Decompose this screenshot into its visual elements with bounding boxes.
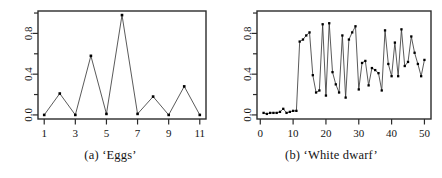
data-point-marker: [351, 31, 353, 33]
x-axis-tick-label: 3: [73, 127, 79, 139]
data-point-marker: [282, 108, 284, 110]
x-axis-tick-label: 7: [135, 127, 141, 139]
data-point-marker: [410, 35, 412, 37]
data-point-marker: [305, 34, 307, 36]
data-point-marker: [285, 112, 287, 114]
data-point-marker: [394, 41, 396, 43]
data-point-marker: [136, 113, 139, 116]
data-point-marker: [390, 75, 392, 77]
data-point-marker: [371, 67, 373, 69]
data-point-marker: [361, 62, 363, 64]
x-axis-tick-label: 50: [419, 127, 431, 139]
x-axis-tick-label: 20: [320, 127, 332, 139]
data-point-marker: [279, 111, 281, 113]
panel-eggs: 0.00.40.81357911 (a) ‘Eggs’: [0, 0, 221, 178]
data-point-marker: [325, 94, 327, 96]
data-point-marker: [167, 114, 170, 117]
data-point-marker: [152, 95, 155, 98]
data-point-marker: [344, 96, 346, 98]
data-point-marker: [397, 75, 399, 77]
y-axis-tick-label: 0.4: [241, 67, 253, 81]
caption-panel-a: (a) ‘Eggs’: [0, 148, 221, 163]
data-series-line: [264, 23, 425, 114]
data-point-marker: [312, 74, 314, 76]
x-axis-tick-label: 5: [104, 127, 110, 139]
data-point-marker: [341, 34, 343, 36]
data-series-line: [44, 15, 200, 115]
x-axis-tick-label: 10: [288, 127, 300, 139]
figure-container: 0.00.40.81357911 (a) ‘Eggs’ 0.00.40.8010…: [0, 0, 442, 178]
data-point-marker: [338, 91, 340, 93]
data-point-marker: [308, 31, 310, 33]
data-point-marker: [423, 59, 425, 61]
y-axis-tick-label: 0.4: [22, 67, 34, 81]
data-point-marker: [105, 113, 108, 116]
data-point-marker: [272, 112, 274, 114]
data-point-marker: [43, 114, 46, 117]
data-point-marker: [121, 14, 124, 17]
data-point-marker: [400, 28, 402, 30]
panel-white-dwarf: 0.00.40.801020304050 (b) ‘White dwarf’: [221, 0, 442, 178]
data-point-marker: [420, 75, 422, 77]
data-point-marker: [407, 61, 409, 63]
x-axis-tick-label: 9: [166, 127, 172, 139]
data-point-marker: [404, 65, 406, 67]
data-point-marker: [335, 83, 337, 85]
data-point-marker: [384, 29, 386, 31]
plot-frame: [38, 11, 206, 119]
data-point-marker: [58, 92, 61, 95]
x-axis-tick-label: 1: [41, 127, 47, 139]
data-point-marker: [374, 69, 376, 71]
y-axis-tick-label: 0.0: [241, 108, 253, 122]
x-axis-tick-label: 11: [194, 127, 205, 139]
data-point-marker: [198, 114, 201, 117]
data-point-marker: [413, 52, 415, 54]
data-point-marker: [74, 114, 77, 117]
data-point-marker: [299, 40, 301, 42]
data-point-marker: [331, 71, 333, 73]
x-axis-tick-label: 30: [353, 127, 365, 139]
data-point-marker: [295, 110, 297, 112]
data-point-marker: [318, 89, 320, 91]
data-point-marker: [266, 113, 268, 115]
caption-panel-b: (b) ‘White dwarf’: [221, 148, 442, 163]
data-point-marker: [315, 91, 317, 93]
data-point-marker: [276, 112, 278, 114]
data-point-marker: [90, 55, 93, 58]
data-point-marker: [417, 63, 419, 65]
y-axis-tick-label: 0.8: [22, 26, 34, 40]
x-axis-tick-label: 0: [258, 127, 264, 139]
data-point-marker: [381, 89, 383, 91]
y-axis-tick-label: 0.8: [241, 26, 253, 40]
y-axis-tick-label: 0.0: [22, 108, 34, 122]
data-point-marker: [377, 72, 379, 74]
data-point-marker: [292, 110, 294, 112]
data-point-marker: [328, 22, 330, 24]
data-point-marker: [302, 38, 304, 40]
data-point-marker: [262, 112, 264, 114]
data-point-marker: [367, 84, 369, 86]
data-point-marker: [354, 25, 356, 27]
x-axis-tick-label: 40: [386, 127, 398, 139]
data-point-marker: [358, 88, 360, 90]
data-point-marker: [269, 112, 271, 114]
data-point-marker: [348, 38, 350, 40]
data-point-marker: [387, 63, 389, 65]
data-point-marker: [364, 60, 366, 62]
data-point-marker: [322, 23, 324, 25]
data-point-marker: [183, 85, 186, 88]
data-point-marker: [289, 111, 291, 113]
